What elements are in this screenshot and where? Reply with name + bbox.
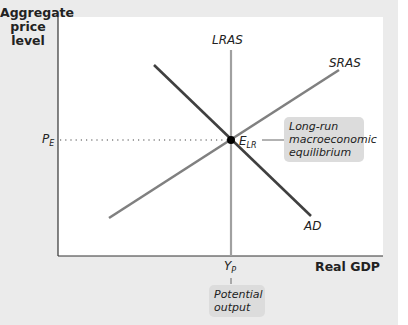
potential-output-callout: Potential output — [209, 285, 265, 317]
x-axis-label: Real GDP — [315, 259, 380, 274]
equilibrium-subscript: LR — [247, 141, 257, 150]
ad-label: AD — [304, 219, 321, 233]
lras-label: LRAS — [212, 33, 243, 47]
equilibrium-label: ELR — [239, 134, 257, 150]
output-tick-label: YP — [224, 259, 236, 275]
price-subscript: E — [49, 139, 54, 148]
equilibrium-point — [227, 136, 235, 144]
chart-svg — [0, 0, 408, 325]
equilibrium-symbol: E — [239, 134, 247, 148]
y-axis-label: Aggregate price level — [0, 6, 56, 48]
output-subscript: P — [231, 266, 236, 275]
price-tick-label: PE — [42, 132, 54, 148]
equilibrium-callout: Long-run macroeconomic equilibrium — [284, 117, 364, 162]
sras-label: SRAS — [329, 56, 361, 70]
